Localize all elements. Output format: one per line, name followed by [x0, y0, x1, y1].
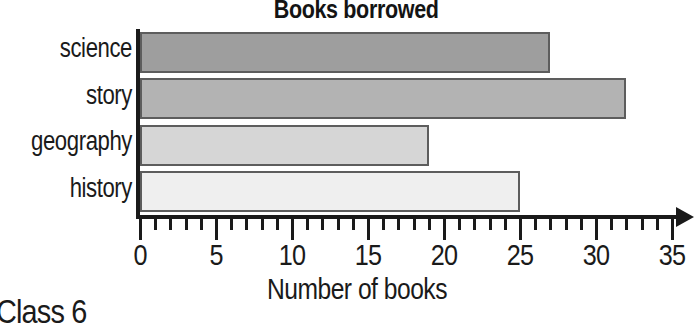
- x-tick-minor-24: [504, 219, 507, 230]
- x-tick-minor-13: [337, 219, 340, 230]
- x-tick-minor-28: [565, 219, 568, 230]
- x-tick-minor-26: [534, 219, 537, 230]
- x-tick-minor-32: [625, 219, 628, 230]
- x-tick-major-0: [139, 219, 142, 240]
- x-tick-label-25: 25: [507, 240, 533, 270]
- x-tick-minor-11: [306, 219, 309, 230]
- category-label-geography: geography: [24, 128, 132, 155]
- page-footer-fragment: Class 6: [0, 292, 86, 327]
- category-label-story: story: [24, 82, 132, 109]
- x-tick-minor-8: [261, 219, 264, 230]
- x-tick-major-10: [291, 219, 294, 240]
- x-tick-minor-2: [169, 219, 172, 230]
- x-tick-minor-9: [276, 219, 279, 230]
- x-tick-minor-14: [352, 219, 355, 230]
- x-tick-minor-22: [473, 219, 476, 230]
- x-axis-arrow-icon: [676, 207, 694, 227]
- x-tick-label-5: 5: [209, 240, 222, 270]
- x-tick-minor-31: [610, 219, 613, 230]
- x-tick-label-20: 20: [431, 240, 457, 270]
- x-tick-minor-16: [382, 219, 385, 230]
- bar-history: [140, 171, 520, 212]
- x-tick-minor-3: [185, 219, 188, 230]
- x-tick-major-25: [519, 219, 522, 240]
- x-tick-minor-1: [154, 219, 157, 230]
- x-tick-major-35: [671, 219, 674, 240]
- x-tick-minor-23: [489, 219, 492, 230]
- x-tick-minor-27: [549, 219, 552, 230]
- x-tick-minor-18: [413, 219, 416, 230]
- x-tick-label-15: 15: [355, 240, 381, 270]
- bar-story: [140, 78, 626, 119]
- x-tick-major-15: [367, 219, 370, 240]
- x-tick-major-5: [215, 219, 218, 240]
- x-tick-label-10: 10: [279, 240, 305, 270]
- x-tick-minor-7: [245, 219, 248, 230]
- x-tick-minor-34: [656, 219, 659, 230]
- category-label-science: science: [24, 35, 132, 62]
- x-tick-minor-6: [230, 219, 233, 230]
- x-tick-minor-33: [641, 219, 644, 230]
- x-tick-major-30: [595, 219, 598, 240]
- bar-geography: [140, 125, 429, 166]
- x-tick-minor-21: [458, 219, 461, 230]
- bar-science: [140, 32, 550, 73]
- category-label-history: history: [24, 175, 132, 202]
- x-tick-minor-4: [200, 219, 203, 230]
- x-tick-major-20: [443, 219, 446, 240]
- x-tick-minor-17: [397, 219, 400, 230]
- x-tick-label-30: 30: [583, 240, 609, 270]
- x-tick-minor-12: [321, 219, 324, 230]
- chart-title: Books borrowed: [56, 0, 655, 24]
- x-axis-line: [136, 215, 684, 219]
- plot-area: [140, 30, 690, 216]
- x-axis-title: Number of books: [61, 273, 653, 306]
- x-tick-minor-29: [580, 219, 583, 230]
- y-axis-line: [136, 29, 140, 219]
- x-tick-label-35: 35: [659, 240, 685, 270]
- x-tick-minor-19: [428, 219, 431, 230]
- x-tick-label-0: 0: [133, 240, 146, 270]
